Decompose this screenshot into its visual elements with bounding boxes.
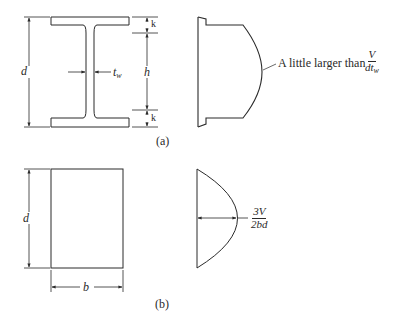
caption-b: (b) <box>155 298 169 310</box>
annotation-a-fraction: V dtw <box>364 49 380 75</box>
web-thickness-label: tw <box>113 66 122 80</box>
rectangular-section <box>51 169 123 268</box>
figure-canvas <box>0 0 404 317</box>
shear-distribution-a <box>198 17 276 127</box>
depth-label-a: d <box>21 65 27 77</box>
fillet-k-top-label: k <box>151 19 156 29</box>
depth-label-b: d <box>23 212 29 224</box>
width-label-b: b <box>83 281 89 293</box>
fillet-k-bottom-label: k <box>151 113 156 123</box>
web-height-label: h <box>144 66 150 78</box>
caption-a: (a) <box>156 135 169 147</box>
shear-distribution-b <box>197 169 248 268</box>
annotation-b-fraction: 3V 2bd <box>250 206 269 230</box>
annotation-a-text: A little larger than <box>278 57 365 69</box>
depth-dimension-a <box>24 17 50 127</box>
